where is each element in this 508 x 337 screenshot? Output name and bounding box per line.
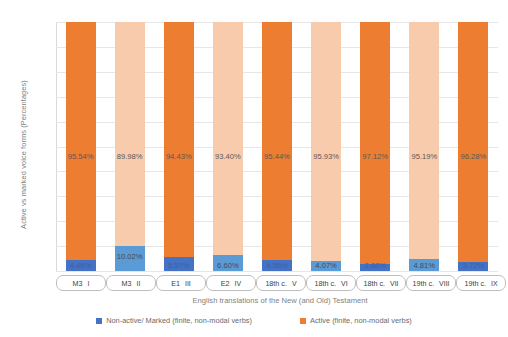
category-numeral: II xyxy=(137,280,141,287)
x-axis-category-box[interactable]: M3I xyxy=(56,275,106,291)
bar-segment-active[interactable]: 95.93% xyxy=(311,22,341,261)
bar-segment-active[interactable]: 96.28% xyxy=(458,22,488,262)
bar-segment-marked[interactable]: 5.57% xyxy=(164,257,194,271)
bar-label-marked: 10.02% xyxy=(117,252,143,261)
category-name: 18th c. xyxy=(314,279,336,288)
bar-group[interactable]: 89.98%10.02% xyxy=(115,22,145,271)
category-numeral: VIII xyxy=(439,280,450,287)
category-name: M3 xyxy=(73,279,83,288)
legend-label: Non-active/ Marked (finite, non-modal ve… xyxy=(106,316,252,325)
bar-group[interactable]: 97.12%2.88% xyxy=(360,22,390,271)
bar-label-active: 95.19% xyxy=(411,152,437,161)
bar-label-marked: 5.57% xyxy=(168,261,190,270)
bar-group[interactable]: 94.43%5.57% xyxy=(164,22,194,271)
legend-label: Active (finite, non-modal verbs) xyxy=(310,316,412,325)
x-axis-category-box[interactable]: 18th c.VII xyxy=(356,275,406,291)
category-name: 18th c. xyxy=(363,279,385,288)
bar-segment-marked[interactable]: 4.07% xyxy=(311,261,341,271)
bar-label-marked: 4.81% xyxy=(414,261,436,270)
x-axis-category-box[interactable]: M3II xyxy=(106,275,156,291)
category-numeral: VII xyxy=(390,280,399,287)
legend-item[interactable]: Non-active/ Marked (finite, non-modal ve… xyxy=(96,316,252,325)
bar-label-marked: 4.56% xyxy=(266,261,288,270)
x-axis-category-box[interactable]: 18th c.V xyxy=(256,275,306,291)
bar-segment-marked[interactable]: 4.81% xyxy=(409,259,439,271)
category-name: 18th c. xyxy=(265,279,287,288)
bar-label-active: 95.93% xyxy=(313,152,339,161)
category-numeral: VI xyxy=(341,280,348,287)
bar-label-active: 94.43% xyxy=(166,152,192,161)
legend-item[interactable]: Active (finite, non-modal verbs) xyxy=(300,316,412,325)
bar-group[interactable]: 95.44%4.56% xyxy=(262,22,292,271)
bar-label-marked: 2.88% xyxy=(364,261,386,270)
bar-label-marked: 6.60% xyxy=(217,261,239,270)
bar-segment-marked[interactable]: 4.56% xyxy=(262,260,292,271)
bar-segment-active[interactable]: 97.12% xyxy=(360,22,390,264)
bar-label-active: 96.28% xyxy=(461,152,487,161)
x-axis-category-box[interactable]: 19th c.IX xyxy=(456,275,506,291)
category-numeral: IX xyxy=(491,280,498,287)
bar-group[interactable]: 95.54%4.46% xyxy=(66,22,96,271)
bar-group[interactable]: 96.28%3.72% xyxy=(458,22,488,271)
x-axis-category-box[interactable]: E2IV xyxy=(206,275,256,291)
category-name: E1 xyxy=(171,279,180,288)
x-axis-category-box[interactable]: 19th c.VIII xyxy=(406,275,456,291)
bar-segment-active[interactable]: 94.43% xyxy=(164,22,194,257)
bar-label-active: 95.54% xyxy=(68,152,94,161)
bar-segment-active[interactable]: 93.40% xyxy=(213,22,243,255)
bar-label-active: 93.40% xyxy=(215,152,241,161)
y-axis-title: Active vs marked voice forms (Percentage… xyxy=(19,40,28,270)
bar-segment-active[interactable]: 95.54% xyxy=(66,22,96,260)
x-axis-title: English translations of the New (and Old… xyxy=(56,296,504,305)
bar-segment-active[interactable]: 95.44% xyxy=(262,22,292,260)
bar-segment-active[interactable]: 89.98% xyxy=(115,22,145,246)
bar-label-marked: 4.07% xyxy=(315,261,337,270)
bar-label-marked: 3.72% xyxy=(463,261,485,270)
bar-series-group: 95.54%4.46%89.98%10.02%94.43%5.57%93.40%… xyxy=(56,22,498,271)
x-axis-category-box[interactable]: E1III xyxy=(156,275,206,291)
chart-legend: Non-active/ Marked (finite, non-modal ve… xyxy=(0,316,508,325)
bar-segment-marked[interactable]: 4.46% xyxy=(66,260,96,271)
category-numeral: I xyxy=(88,280,90,287)
bar-group[interactable]: 95.19%4.81% xyxy=(409,22,439,271)
bar-segment-marked[interactable]: 10.02% xyxy=(115,246,145,271)
bar-label-active: 95.44% xyxy=(264,152,290,161)
category-name: 19th c. xyxy=(412,279,434,288)
legend-swatch-icon xyxy=(300,318,306,324)
bar-segment-marked[interactable]: 3.72% xyxy=(458,262,488,271)
gridline: 0% xyxy=(56,271,498,272)
bar-label-marked: 4.46% xyxy=(70,261,92,270)
chart-container: Active vs marked voice forms (Percentage… xyxy=(0,0,508,337)
x-axis-category-box[interactable]: 18th c.VI xyxy=(306,275,356,291)
category-name: E2 xyxy=(221,279,230,288)
category-name: 19th c. xyxy=(464,279,486,288)
plot-area: 100%90%80%70%60%50%40%30%20%10%0% 95.54%… xyxy=(56,22,498,271)
bar-group[interactable]: 93.40%6.60% xyxy=(213,22,243,271)
bar-label-active: 89.98% xyxy=(117,152,143,161)
bar-group[interactable]: 95.93%4.07% xyxy=(311,22,341,271)
bar-segment-marked[interactable]: 2.88% xyxy=(360,264,390,271)
bar-label-active: 97.12% xyxy=(362,152,388,161)
category-numeral: IV xyxy=(235,280,242,287)
legend-swatch-icon xyxy=(96,318,102,324)
bar-segment-marked[interactable]: 6.60% xyxy=(213,255,243,271)
x-axis-category-labels: M3IM3IIE1IIIE2IV18th c.V18th c.VI18th c.… xyxy=(56,274,498,292)
category-name: M3 xyxy=(122,279,132,288)
category-numeral: V xyxy=(292,280,297,287)
category-numeral: III xyxy=(185,280,191,287)
bar-segment-active[interactable]: 95.19% xyxy=(409,22,439,259)
